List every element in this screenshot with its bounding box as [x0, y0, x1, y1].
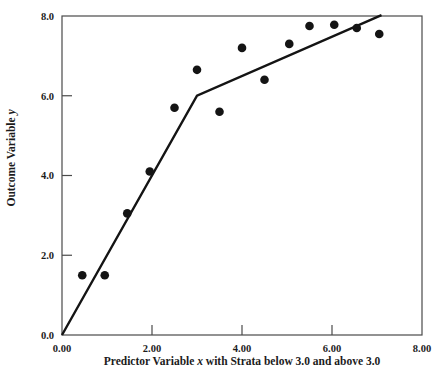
scatter-plot-figure: 0.002.004.006.008.000.02.04.06.08.0Predi… — [0, 0, 443, 380]
data-point — [352, 24, 361, 33]
data-point — [285, 40, 294, 49]
data-point — [123, 209, 132, 218]
data-point — [100, 271, 109, 280]
data-point — [375, 30, 384, 39]
plot-frame — [62, 16, 422, 335]
x-tick-label: 6.00 — [323, 343, 341, 354]
data-point — [78, 271, 87, 280]
x-tick-label: 8.00 — [413, 343, 431, 354]
data-point — [170, 103, 179, 112]
y-tick-label: 4.0 — [41, 170, 54, 181]
x-tick-label: 2.00 — [143, 343, 161, 354]
data-point — [330, 20, 339, 29]
data-point — [193, 66, 202, 75]
x-tick-label: 4.00 — [233, 343, 251, 354]
x-axis-title: Predictor Variable x with Strata below 3… — [104, 355, 381, 367]
data-point — [238, 44, 247, 53]
data-point — [260, 76, 269, 85]
y-tick-label: 2.0 — [41, 250, 54, 261]
data-point — [145, 167, 154, 176]
y-tick-label: 8.0 — [41, 11, 54, 22]
data-point — [305, 22, 314, 31]
y-tick-label: 6.0 — [41, 91, 54, 102]
data-point — [215, 107, 224, 116]
x-tick-label: 0.00 — [53, 343, 71, 354]
y-tick-label: 0.0 — [41, 330, 54, 341]
scatter-plot-canvas: 0.002.004.006.008.000.02.04.06.08.0Predi… — [0, 0, 443, 380]
fit-line — [62, 15, 382, 335]
y-axis-title: Outcome Variable y — [5, 109, 18, 207]
